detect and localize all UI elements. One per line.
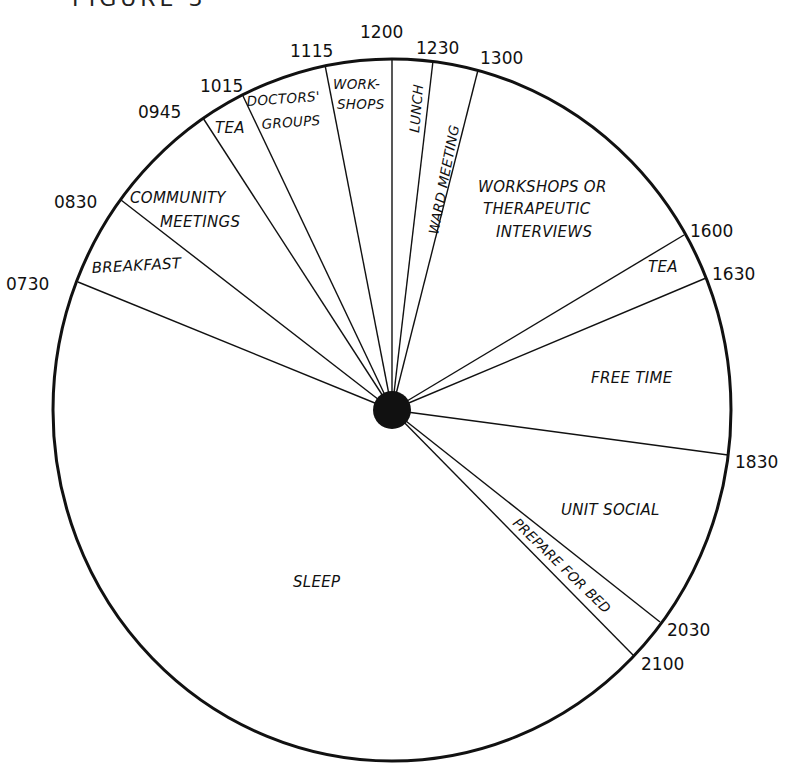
segment-label-workshops-therapeutic-2: THERAPEUTIC (483, 200, 591, 218)
boundary-line-1630 (392, 278, 706, 410)
segment-label-doctors-groups-2: GROUPS (261, 112, 321, 132)
boundary-lines (78, 59, 728, 656)
segment-label-free-time: FREE TIME (591, 369, 673, 387)
boundary-line-1015 (243, 96, 392, 410)
segment-label-prepare-for-bed: PREPARE FOR BED (510, 515, 614, 617)
segment-label-lunch: LUNCH (406, 83, 426, 133)
segment-label-unit-social: UNIT SOCIAL (561, 501, 660, 519)
time-label-1300: 1300 (480, 48, 523, 68)
boundary-line-1300 (392, 70, 478, 410)
segment-label-ward-meeting: WARD MEETING (425, 123, 462, 235)
time-label-1600: 1600 (690, 221, 733, 241)
time-label-1230: 1230 (416, 38, 459, 58)
time-label-0830: 0830 (54, 192, 97, 212)
daily-schedule-diagram: 0730 0830 0945 1015 1115 1200 1230 1300 … (0, 0, 793, 765)
boundary-line-0730 (78, 282, 392, 410)
segment-label-workshops-therapeutic-3: INTERVIEWS (496, 223, 592, 241)
segment-label-workshops-therapeutic-1: WORKSHOPS OR (478, 178, 607, 196)
activity-labels: BREAKFAST COMMUNITY MEETINGS TEA DOCTORS… (91, 76, 678, 616)
boundary-line-2100 (392, 410, 634, 656)
time-label-2030: 2030 (667, 620, 710, 640)
segment-label-doctors-groups-1: DOCTORS' (246, 88, 320, 109)
segment-label-workshops-2: SHOPS (337, 96, 385, 112)
time-label-2100: 2100 (641, 654, 684, 674)
boundary-line-0830 (121, 200, 392, 410)
time-label-1630: 1630 (712, 264, 755, 284)
time-label-0945: 0945 (138, 102, 181, 122)
time-label-0730: 0730 (6, 274, 49, 294)
boundary-line-1830 (392, 410, 728, 455)
segment-label-tea-afternoon: TEA (648, 258, 678, 276)
time-label-1115: 1115 (290, 41, 333, 61)
segment-label-tea-morning: TEA (215, 119, 245, 137)
time-label-1200: 1200 (360, 22, 403, 42)
segment-label-sleep: SLEEP (293, 573, 341, 591)
segment-label-community-meetings-1: COMMUNITY (130, 189, 227, 207)
segment-label-community-meetings-2: MEETINGS (160, 213, 240, 231)
segment-label-breakfast: BREAKFAST (91, 254, 183, 277)
center-hub (373, 391, 411, 429)
time-label-1830: 1830 (735, 452, 778, 472)
segment-label-workshops-1: WORK- (333, 76, 380, 92)
time-label-1015: 1015 (200, 76, 243, 96)
